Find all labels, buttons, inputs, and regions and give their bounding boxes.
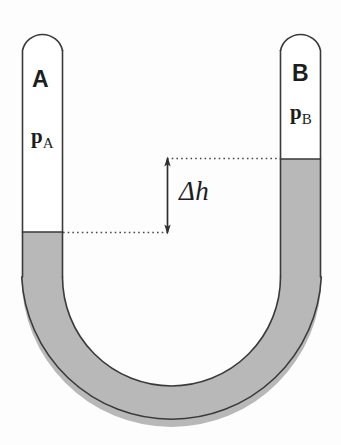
height-annotation [63, 157, 282, 235]
label-pressure-a: pA [31, 126, 54, 151]
label-pressure-b-symbol: p [290, 100, 302, 124]
label-chamber-a: A [32, 68, 49, 91]
manometer-figure: A pA B pB Δh [0, 0, 341, 445]
label-height-difference: Δh [179, 178, 209, 205]
label-pressure-a-subscript: A [43, 135, 54, 151]
tube-right-interior [281, 35, 321, 159]
fluid-right-column [280, 159, 321, 292]
label-chamber-b: B [292, 62, 309, 85]
manometer-drawing [0, 0, 341, 445]
label-pressure-b: pB [290, 102, 312, 127]
tube-interiors [23, 35, 321, 232]
fluid-u-bend [22, 277, 322, 427]
label-pressure-a-symbol: p [31, 124, 43, 148]
label-pressure-b-subscript: B [302, 111, 312, 127]
fluid-body [22, 159, 322, 427]
